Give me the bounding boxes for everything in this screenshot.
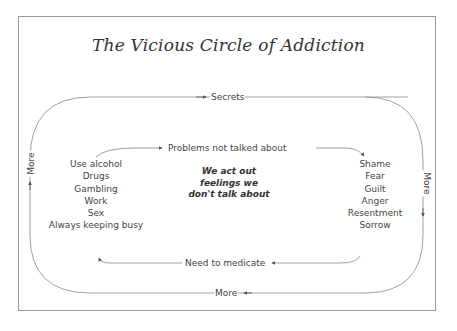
behavior-item: Use alcohol <box>40 158 152 170</box>
diagram-title: The Vicious Circle of Addiction <box>0 35 457 55</box>
center-statement: We act out feelings we don't talk about <box>175 166 283 201</box>
behavior-item: Gambling <box>40 183 152 195</box>
feeling-item: Anger <box>340 195 410 207</box>
behavior-item: Drugs <box>40 170 152 182</box>
behavior-item: Always keeping busy <box>40 219 152 231</box>
behavior-item: Sex <box>40 207 152 219</box>
center-line: feelings we <box>175 178 283 190</box>
feeling-item: Shame <box>340 158 410 170</box>
label-secrets: Secrets <box>210 92 245 103</box>
label-need-to-medicate: Need to medicate <box>184 258 266 269</box>
behaviors-list: Use alcohol Drugs Gambling Work Sex Alwa… <box>40 158 152 232</box>
center-line: don't talk about <box>175 189 283 201</box>
label-more-bottom: More <box>214 288 238 299</box>
feeling-item: Resentment <box>340 207 410 219</box>
label-more-right: More <box>421 170 432 196</box>
label-problems-not-talked-about: Problems not talked about <box>167 143 287 154</box>
behavior-item: Work <box>40 195 152 207</box>
feeling-item: Guilt <box>340 183 410 195</box>
feeling-item: Fear <box>340 170 410 182</box>
label-more-left: More <box>26 150 37 176</box>
feelings-list: Shame Fear Guilt Anger Resentment Sorrow <box>340 158 410 232</box>
feeling-item: Sorrow <box>340 219 410 231</box>
center-line: We act out <box>175 166 283 178</box>
